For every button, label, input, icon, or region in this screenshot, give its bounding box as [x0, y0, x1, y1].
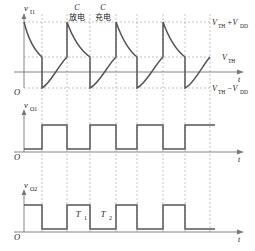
- annotation-discharge: C 放电: [69, 3, 85, 22]
- panel-vO1: v O1 O t: [14, 100, 244, 164]
- panel-vO2: v O2 O t T 1 T 2: [14, 180, 244, 244]
- level-lower-TH: TH: [218, 89, 225, 95]
- vO1-origin-label: O: [14, 152, 20, 162]
- vO1-t-axis-arrow: [237, 150, 244, 155]
- vO1-time-axis-label: t: [238, 155, 241, 164]
- vO1-signal-label: v O1: [24, 100, 37, 112]
- vI1-y-axis-arrow: [22, 13, 27, 19]
- charge-C-symbol: C: [100, 3, 106, 12]
- vI1-label-main: v: [24, 3, 28, 13]
- level-lower-minusV: −V: [227, 84, 238, 93]
- T2-main: T: [101, 209, 107, 219]
- vI1-t-axis-arrow: [237, 70, 244, 75]
- vO2-label-main: v: [24, 180, 28, 190]
- vO2-waveform: [24, 205, 215, 229]
- panel-vI1: v I1 O t V TH +V DD V TH V TH −V DD C 放电: [14, 3, 248, 97]
- annotation-charge: C 充电: [95, 3, 111, 22]
- vO1-label-main: v: [24, 100, 28, 110]
- level-label-mid: V TH: [222, 53, 235, 64]
- vO1-waveform: [24, 125, 215, 149]
- vI1-signal-label: v I1: [24, 3, 35, 15]
- level-upper-plusV: +V: [227, 18, 238, 27]
- vI1-time-axis-label: t: [238, 75, 241, 84]
- level-mid-TH: TH: [228, 58, 235, 64]
- waveform-svg: v I1 O t V TH +V DD V TH V TH −V DD C 放电: [0, 0, 255, 251]
- discharge-text: 放电: [69, 12, 85, 22]
- vO2-t-axis-arrow: [237, 230, 244, 235]
- T1-main: T: [76, 209, 82, 219]
- T1-sub: 1: [84, 215, 87, 221]
- vI1-origin-label: O: [14, 87, 20, 97]
- T2-sub: 2: [109, 215, 112, 221]
- waveform-figure: v I1 O t V TH +V DD V TH V TH −V DD C 放电: [0, 0, 255, 251]
- vO2-time-axis-label: t: [238, 235, 241, 244]
- period-label-T2: T 2: [101, 209, 112, 221]
- discharge-C-symbol: C: [74, 3, 80, 12]
- level-upper-TH: TH: [218, 23, 225, 29]
- vI1-waveform: [24, 22, 210, 88]
- charge-text: 充电: [95, 12, 111, 22]
- vO1-label-sub: O1: [30, 106, 37, 112]
- vO2-origin-label: O: [14, 232, 20, 242]
- level-lower-DD: DD: [240, 89, 248, 95]
- period-label-T1: T 1: [76, 209, 87, 221]
- vO2-signal-label: v O2: [24, 180, 37, 192]
- level-label-lower: V TH −V DD: [212, 84, 248, 95]
- vI1-label-sub: I1: [30, 9, 35, 15]
- vO2-label-sub: O2: [30, 186, 37, 192]
- level-upper-DD: DD: [240, 23, 248, 29]
- level-label-upper: V TH +V DD: [212, 18, 248, 29]
